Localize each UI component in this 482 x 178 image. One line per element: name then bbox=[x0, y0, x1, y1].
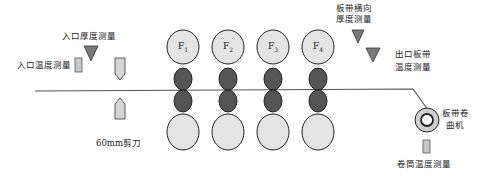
exit-temperature-sensor-icon bbox=[366, 48, 380, 62]
shear-lower-blade-icon bbox=[115, 98, 125, 119]
stand-f2-label: F2 bbox=[218, 41, 238, 53]
coil-temperature-sensor-icon bbox=[423, 140, 430, 153]
shear-upper-blade-icon bbox=[115, 58, 125, 80]
coiler-label-line1: 板带卷 bbox=[442, 108, 469, 119]
entry-thickness-label: 入口厚度测量 bbox=[62, 31, 116, 42]
shear-label: 60mm剪刀 bbox=[96, 138, 141, 149]
rolling-mill-diagram: 入口厚度测量 入口温度测量 60mm剪刀 板带横向 厚度测量 出口板带 温度测量… bbox=[0, 0, 482, 178]
exit-temperature-label-line2: 温度测量 bbox=[395, 62, 431, 73]
cross-thickness-sensor-icon bbox=[352, 30, 364, 43]
cross-thickness-label-line2: 厚度测量 bbox=[336, 14, 372, 25]
entry-temperature-sensor-icon bbox=[75, 58, 82, 72]
coil-temperature-label: 卷筒温度测量 bbox=[397, 159, 451, 170]
entry-temperature-label: 入口温度测量 bbox=[17, 60, 71, 71]
coiler-icon bbox=[415, 108, 439, 132]
entry-thickness-sensor-icon bbox=[84, 46, 98, 61]
cross-thickness-label-line1: 板带横向 bbox=[336, 3, 372, 14]
exit-temperature-label-line1: 出口板带 bbox=[395, 49, 431, 60]
coiler-label-line2: 曲机 bbox=[446, 120, 464, 131]
diagram-graphics bbox=[0, 0, 482, 178]
stand-f3-label: F3 bbox=[263, 41, 283, 53]
stand-f4-label: F4 bbox=[308, 41, 328, 53]
stand-f1-label: F1 bbox=[173, 41, 193, 53]
